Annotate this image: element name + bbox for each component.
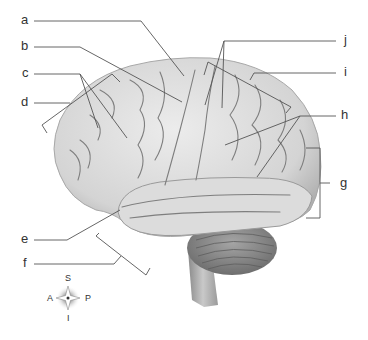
label-h: h: [341, 108, 348, 121]
compass-posterior: P: [85, 294, 91, 303]
label-e: e: [21, 232, 28, 245]
label-c: c: [22, 66, 29, 79]
label-f: f: [23, 256, 27, 269]
temporal-lobe: [118, 178, 312, 236]
compass-superior: S: [65, 274, 71, 283]
label-g: g: [340, 176, 347, 189]
label-i: i: [344, 65, 347, 78]
label-b: b: [21, 39, 28, 52]
brain-illustration: [0, 0, 368, 340]
compass-inferior: I: [67, 314, 70, 323]
brain-diagram: a b c d e f g h i j S A P I: [0, 0, 368, 340]
label-j: j: [344, 33, 347, 46]
compass-rose: [56, 286, 80, 310]
label-d: d: [21, 95, 28, 108]
label-a: a: [21, 13, 28, 26]
compass-anterior: A: [47, 294, 53, 303]
